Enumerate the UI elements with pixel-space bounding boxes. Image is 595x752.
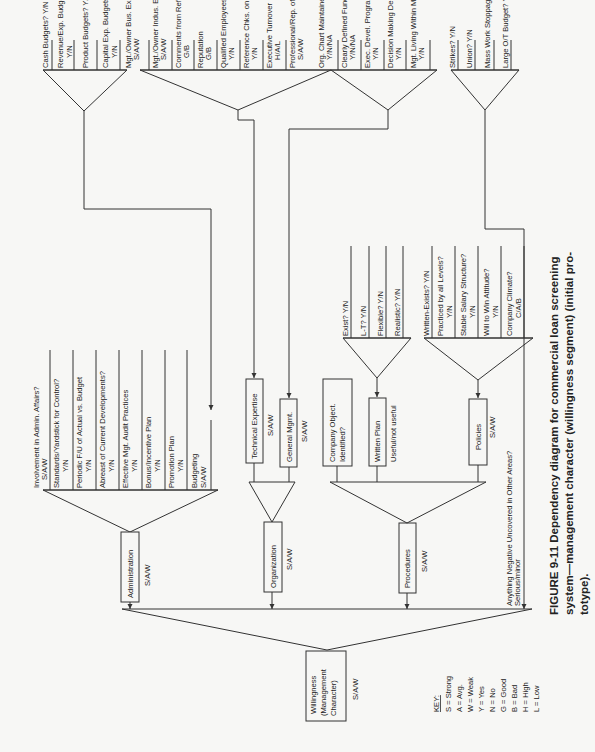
svg-text:Realistic? Y/N: Realistic? Y/N	[393, 288, 402, 336]
technical-expertise-scale: S/A/W	[266, 414, 275, 436]
general-converge-triangle	[331, 70, 437, 110]
svg-text:G = Good: G = Good	[499, 679, 508, 712]
svg-text:Y/N: Y/N	[153, 459, 162, 472]
policies-scale: S/A/W	[488, 416, 497, 438]
svg-text:KEY:: KEY:	[432, 695, 441, 712]
administration-factor-labels: Involvement in Admin. Affairs? S/A/W Sta…	[32, 371, 208, 488]
svg-text:Promotion Plan: Promotion Plan	[167, 436, 176, 488]
technical-to-expertise-connector	[238, 110, 254, 378]
svg-text:Revenue/Exp. Budgets: Revenue/Exp. Budgets	[56, 0, 65, 68]
svg-text:Y/N: Y/N	[84, 459, 93, 472]
technical-converge-triangle	[140, 70, 331, 110]
policies-factor-labels: Written-Exists? Y/N Practiced by all Lev…	[422, 254, 523, 336]
svg-text:A = Avg.: A = Avg.	[455, 684, 464, 712]
written-plan-scale: Useful/not useful	[389, 405, 398, 462]
svg-text:H = High: H = High	[521, 682, 530, 712]
organization-converge-triangle	[249, 482, 295, 522]
administration-scale: S/A/W	[143, 564, 152, 586]
svg-text:S/A/W: S/A/W	[132, 38, 141, 60]
svg-text:Budgeting: Budgeting	[190, 454, 199, 488]
labor-converge-triangle	[451, 70, 519, 110]
root-label-1: Willingness	[309, 675, 318, 714]
svg-text:Effective Mgt. Audit Practices: Effective Mgt. Audit Practices	[121, 390, 130, 488]
legend-key: KEY: S = Strong A = Avg. W = Weak Y = Ye…	[432, 676, 541, 712]
root-converge-triangle	[122, 609, 532, 650]
svg-text:system—management character (w: system—management character (willingness…	[563, 252, 575, 615]
svg-text:W = Weak: W = Weak	[466, 677, 475, 712]
svg-text:Flexible? Y/N: Flexible? Y/N	[376, 291, 385, 336]
company-objectives-label-2: Identified?	[338, 427, 347, 462]
admin-converge-triangle	[43, 490, 218, 532]
figure-caption: FIGURE 9-11 Dependency diagram for comme…	[548, 252, 590, 615]
svg-text:H/A/L: H/A/L	[273, 41, 282, 60]
budget-converge-triangle	[43, 70, 127, 111]
svg-text:Y/N: Y/N	[61, 459, 70, 472]
svg-text:S = Strong: S = Strong	[444, 676, 453, 712]
technical-expertise-label: Technical Expertise	[250, 394, 259, 459]
svg-text:Y/N: Y/N	[394, 47, 403, 60]
svg-text:S/A/W: S/A/W	[40, 458, 49, 480]
svg-text:Y/N: Y/N	[65, 45, 74, 58]
svg-text:Large O/T Budget? Y/N: Large O/T Budget? Y/N	[501, 0, 510, 68]
svg-text:Y/N: Y/N	[445, 305, 454, 318]
svg-text:Strikes? Y/N: Strikes? Y/N	[448, 26, 457, 68]
svg-text:FIGURE 9-11 Dependency diagr: FIGURE 9-11 Dependency diagram for comme…	[548, 256, 560, 615]
svg-text:Abreast of Current Development: Abreast of Current Developments?	[98, 371, 107, 488]
policies-converge-triangle	[424, 338, 533, 380]
svg-text:Y/N/NA: Y/N/NA	[348, 34, 357, 60]
svg-text:Stable Salary Structure?: Stable Salary Structure?	[459, 254, 468, 336]
dependency-diagram: Cash Budgets? Y/N Revenue/Exp. Budgets Y…	[0, 0, 595, 752]
svg-text:Y/N: Y/N	[107, 459, 116, 472]
svg-text:S/A/W: S/A/W	[199, 466, 208, 488]
svg-text:Written-Exists? Y/N: Written-Exists? Y/N	[422, 270, 431, 336]
svg-text:Y/N: Y/N	[110, 45, 119, 58]
svg-text:Standards/Yardstick for Contro: Standards/Yardstick for Control?	[52, 379, 61, 488]
svg-text:Periodic F/U of Actual vs. Bud: Periodic F/U of Actual vs. Budget	[75, 376, 84, 488]
general-mgmt-factor-labels: Org. Chart Maintained? Y/N/NA Clearly De…	[317, 0, 426, 68]
general-mgmt-scale: S/A/W	[300, 420, 309, 442]
svg-text:Y/N: Y/N	[371, 47, 380, 60]
svg-text:Exist? Y/N: Exist? Y/N	[341, 301, 350, 336]
svg-text:C/A/B: C/A/B	[514, 298, 523, 318]
svg-text:G/B: G/B	[204, 47, 213, 60]
svg-text:B = Bad: B = Bad	[510, 685, 519, 712]
svg-text:Y/N: Y/N	[468, 305, 477, 318]
svg-text:Y/N: Y/N	[491, 305, 500, 318]
svg-text:Bonus/Incentive Plan: Bonus/Incentive Plan	[144, 417, 153, 488]
svg-text:S/A/W: S/A/W	[159, 38, 168, 60]
svg-text:Capital Exp. Budgets: Capital Exp. Budgets	[101, 0, 110, 68]
svg-text:Mass Work Stoppages? Y/N: Mass Work Stoppages? Y/N	[483, 0, 492, 68]
svg-text:Y/N/NA: Y/N/NA	[325, 34, 334, 60]
policies-label: Policies	[474, 424, 483, 450]
technical-factor-labels: Mgt./Owner Bus. Exper.? S/A/W Mgt./Owner…	[124, 0, 305, 68]
labor-factor-labels: Strikes? Y/N Union? Y/N Mass Work Stoppa…	[448, 0, 510, 68]
svg-text:L = Low: L = Low	[532, 685, 541, 712]
organization-scale: S/A/W	[285, 548, 294, 570]
svg-text:Y/N: Y/N	[417, 47, 426, 60]
svg-text:Y/N: Y/N	[250, 47, 259, 60]
root-label-2: (Management	[319, 668, 328, 716]
svg-text:Cash Budgets? Y/N: Cash Budgets? Y/N	[41, 1, 50, 68]
svg-text:Y/N: Y/N	[176, 459, 185, 472]
organization-label: Organization	[269, 545, 278, 588]
procedures-scale: S/A/W	[420, 550, 429, 572]
general-mgmt-label: General Mgmt.	[285, 412, 294, 462]
svg-text:Company Climate?: Company Climate?	[505, 271, 514, 336]
procedures-label: Procedures	[403, 549, 412, 588]
budget-factor-labels: Cash Budgets? Y/N Revenue/Exp. Budgets Y…	[41, 0, 119, 68]
general-to-genmgmt-connector	[289, 110, 388, 398]
budget-to-budgeting-connector	[84, 111, 211, 410]
svg-text:totype).: totype).	[578, 573, 590, 615]
svg-text:Y/N: Y/N	[130, 459, 139, 472]
svg-text:Product Budgets? Y/N: Product Budgets? Y/N	[81, 0, 90, 68]
root-scale: S/A/W	[351, 678, 360, 700]
other-areas-scale: Serious/minor	[513, 559, 522, 606]
svg-text:N = No: N = No	[488, 688, 497, 712]
writtenplan-converge-triangle	[343, 338, 411, 378]
written-plan-label: Written Plan	[373, 421, 382, 462]
svg-text:Y = Yes: Y = Yes	[477, 686, 486, 712]
svg-text:S/A/W: S/A/W	[296, 38, 305, 60]
svg-text:Practiced by all Levels?: Practiced by all Levels?	[436, 256, 445, 336]
svg-text:Will to Win Attitude?: Will to Win Attitude?	[482, 268, 491, 336]
svg-text:Y/N: Y/N	[227, 47, 236, 60]
